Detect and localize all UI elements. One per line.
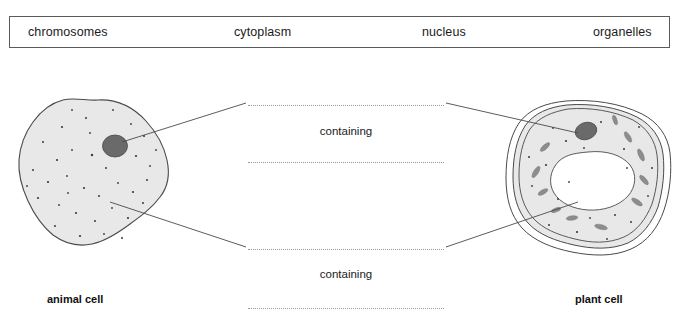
animal-cytoplasm-leader-line	[110, 202, 246, 247]
answer-blank-3[interactable]	[248, 249, 444, 250]
animal-cell-nucleus	[103, 135, 128, 157]
animal-cell-caption: animal cell	[47, 293, 103, 305]
animal-cell-membrane	[19, 99, 168, 245]
containing-label-bottom: containing	[248, 268, 444, 280]
plant-cell-caption: plant cell	[575, 293, 623, 305]
containing-label-top: containing	[248, 125, 444, 137]
plant-cell	[446, 101, 671, 256]
animal-cell	[19, 99, 246, 247]
plant-cell-vacuole	[551, 152, 635, 211]
answer-blank-4[interactable]	[248, 308, 444, 309]
answer-blank-2[interactable]	[248, 162, 444, 163]
answer-blank-1[interactable]	[248, 105, 444, 106]
